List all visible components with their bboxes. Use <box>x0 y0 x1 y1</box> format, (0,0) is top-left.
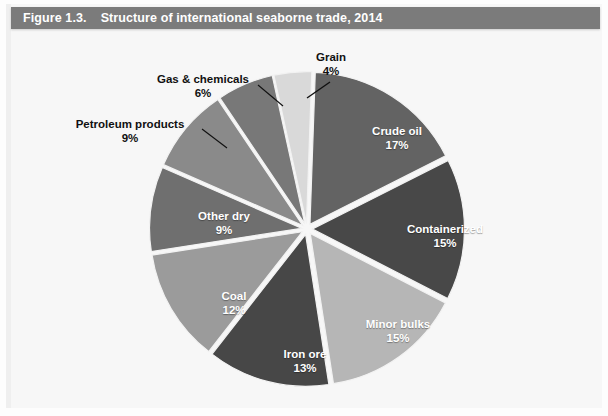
figure-container: Figure 1.3. Structure of international s… <box>0 0 608 416</box>
page-title: Structure of international seaborne trad… <box>101 11 383 25</box>
figure-number-label: Figure 1.3. <box>23 11 87 25</box>
figure-title-bar: Figure 1.3. Structure of international s… <box>11 7 600 29</box>
pie-chart-svg <box>11 33 600 404</box>
pie-chart: Crude oil 17% Containerized 15% Minor bu… <box>11 33 600 404</box>
pie-slice-group <box>150 72 465 387</box>
